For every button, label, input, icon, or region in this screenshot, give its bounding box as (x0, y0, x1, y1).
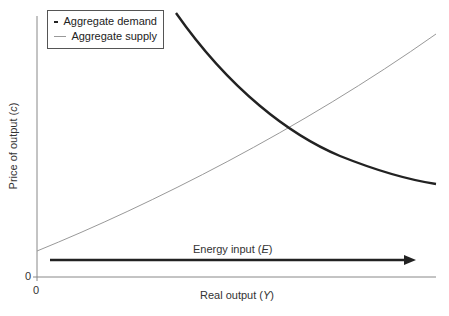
supply-swatch (54, 36, 66, 37)
demand-swatch (54, 21, 58, 23)
legend-item-supply: Aggregate supply (54, 29, 157, 44)
legend-demand-label: Aggregate demand (63, 14, 157, 29)
y-zero-label: 0 (25, 270, 31, 282)
y-axis-label: Price of output (c) (7, 91, 19, 201)
aggregate-supply-curve (37, 34, 436, 251)
legend-supply-label: Aggregate supply (71, 29, 157, 44)
x-axis-label: Real output (Y) (200, 289, 274, 301)
legend-item-demand: Aggregate demand (54, 14, 157, 29)
legend: Aggregate demand Aggregate supply (47, 10, 164, 49)
aggregate-demand-curve (176, 13, 436, 184)
arrowhead-icon (404, 255, 416, 265)
energy-input-label: Energy input (E) (193, 243, 273, 255)
x-zero-label: 0 (33, 284, 39, 296)
